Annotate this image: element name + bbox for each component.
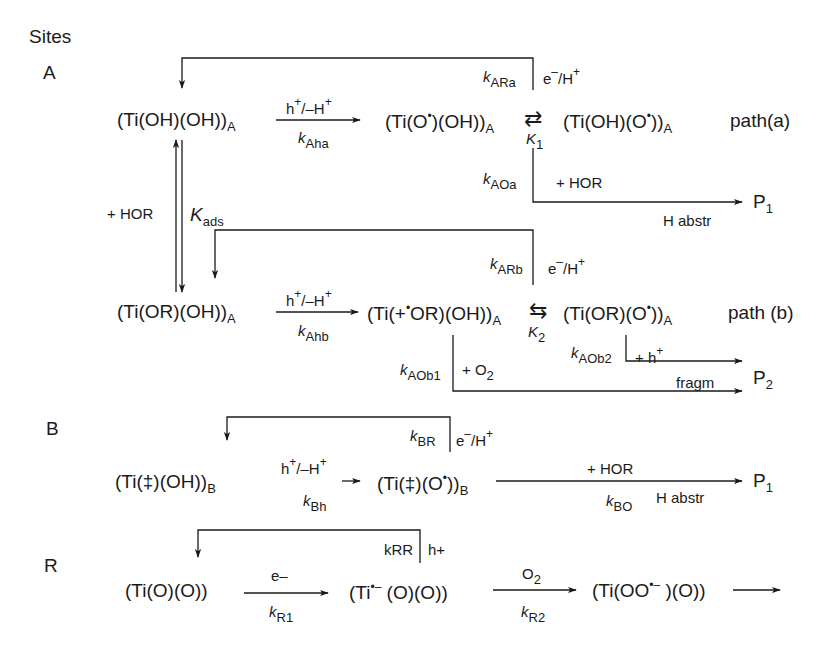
- path-a-species-2: (Ti(O•)(OH))A: [385, 110, 494, 135]
- path-b-oxidation-rate: kAhb: [298, 323, 329, 343]
- site-b-reduction-reagent: e–/H+: [456, 428, 493, 448]
- site-r-electron-rate: kR1: [269, 604, 293, 624]
- path-b-fragmentation-note: fragm: [676, 375, 714, 390]
- site-b-label: B: [46, 419, 59, 438]
- adsorption-reagent: + HOR: [107, 206, 153, 221]
- path-a-oxidation-rate: kAha: [298, 130, 329, 150]
- path-b-fragmentation-rate: kAOb1: [400, 362, 441, 382]
- path-b-hole-reagent: + h+: [635, 345, 663, 365]
- path-b-species-2: (Ti(+•OR)(OH))A: [367, 302, 501, 327]
- adsorption-constant: Kads: [190, 205, 224, 228]
- path-a-equilibrium-symbol: ⇄: [524, 108, 542, 130]
- path-a-output-rate: kAOa: [483, 171, 517, 191]
- site-r-species-1: (Ti(O)(O)): [125, 581, 208, 600]
- path-b-label: path (b): [728, 303, 793, 322]
- site-b-species-1: (Ti(‡)(OH))B: [115, 472, 216, 495]
- site-r-oxygen-reagent: O2: [522, 566, 541, 586]
- site-r-species-2: (Ti•– (O)(O)): [349, 581, 448, 602]
- path-b-product: P2: [753, 368, 773, 391]
- sites-heading: Sites: [29, 27, 71, 46]
- path-a-reduction-loop: [182, 58, 533, 90]
- path-a-species-1: (Ti(OH)(OH))A: [117, 110, 236, 133]
- site-b-oxidation-rate: kBh: [303, 493, 326, 513]
- path-b-species-1: (Ti(OR)(OH))A: [117, 302, 236, 325]
- site-r-label: R: [44, 556, 58, 575]
- path-b-equilibrium-constant: K2: [528, 324, 545, 344]
- path-b-fragmentation-reagent: + O2: [462, 362, 494, 382]
- path-a-oxidation-reagent: h+/–H+: [286, 96, 332, 116]
- path-b-reduction-loop: [215, 230, 533, 285]
- path-a-output-note: H abstr: [663, 213, 711, 228]
- site-b-output-note: H abstr: [656, 490, 704, 505]
- site-r-electron-reagent: e–: [271, 568, 288, 583]
- path-b-reduction-reagent: e–/H+: [548, 256, 585, 276]
- path-a-equilibrium-constant: K1: [526, 131, 543, 151]
- site-b-reduction-rate: kBR: [410, 428, 436, 448]
- path-b-oxidation-reagent: h+/–H+: [286, 288, 332, 308]
- path-b-hole-rate: kAOb2: [571, 345, 612, 365]
- path-a-reduction-reagent: e–/H+: [543, 66, 580, 86]
- path-a-product: P1: [753, 192, 773, 215]
- path-a-output-reagent: + HOR: [556, 175, 602, 190]
- path-b-species-3: (Ti(OR)(O•))A: [563, 302, 672, 327]
- site-r-oxygen-rate: kR2: [521, 604, 545, 624]
- path-a-label: path(a): [730, 111, 790, 130]
- site-b-species-2: (Ti(‡)(O•))B: [377, 472, 468, 497]
- path-b-reduction-rate: kARb: [490, 256, 523, 276]
- path-b-equilibrium-symbol: ⇆: [529, 300, 547, 322]
- site-r-reduction-reagent: h+: [428, 542, 445, 557]
- site-b-output-rate: kBO: [606, 493, 632, 513]
- path-a-reduction-rate: kARa: [483, 69, 516, 89]
- site-r-reduction-rate: kRR: [384, 542, 413, 557]
- site-a-label: A: [43, 63, 56, 82]
- site-b-output-reagent: + HOR: [587, 461, 633, 476]
- path-a-species-3: (Ti(OH)(O•))A: [563, 110, 672, 135]
- site-b-oxidation-reagent: h+/–H+: [281, 456, 327, 476]
- site-r-species-3: (Ti(OO•– )(O)): [592, 579, 706, 600]
- site-b-product: P1: [753, 471, 773, 494]
